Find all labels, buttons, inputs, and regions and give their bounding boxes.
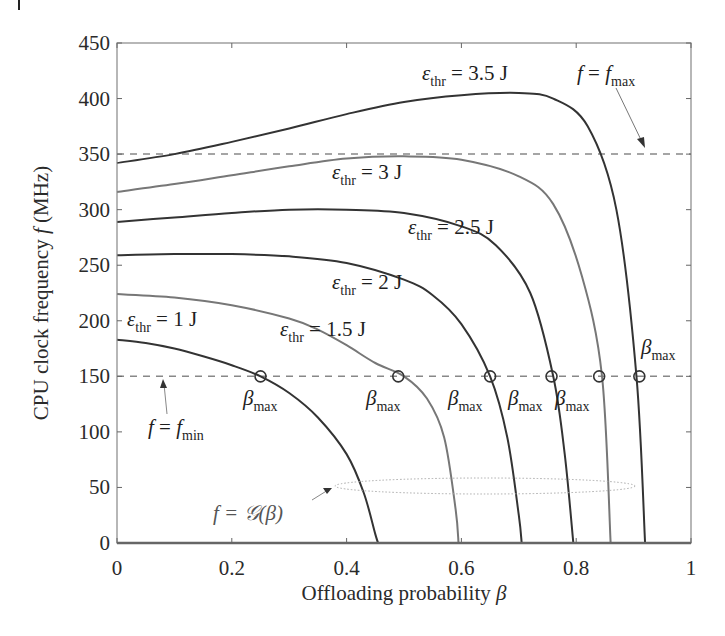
beta-max-labels: βmax βmax βmax βmax βmax βmax bbox=[242, 335, 676, 414]
y-tick-label: 100 bbox=[79, 420, 111, 444]
label-eps-1-5: εthr = 1.5 J bbox=[280, 317, 366, 345]
label-f-min: f = fmin bbox=[148, 415, 204, 443]
x-tick-label: 0.8 bbox=[563, 556, 589, 580]
y-tick-label: 300 bbox=[79, 198, 111, 222]
y-axis-title: CPU clock frequency f (MHz) bbox=[29, 166, 53, 420]
chart: 00.20.40.60.8105010015020025030035040045… bbox=[0, 0, 725, 636]
svg-text:βmax: βmax bbox=[242, 386, 278, 414]
page-mark bbox=[18, 0, 20, 10]
y-tick-label: 150 bbox=[79, 364, 111, 388]
label-eps-3: εthr = 3 J bbox=[332, 160, 402, 188]
x-tick-label: 0 bbox=[112, 556, 123, 580]
label-g-beta: f = 𝒢(β) bbox=[213, 501, 283, 525]
x-tick-label: 1 bbox=[686, 556, 697, 580]
y-tick-label: 50 bbox=[89, 475, 110, 499]
x-tick-label: 0.2 bbox=[219, 556, 245, 580]
y-tick-label: 350 bbox=[79, 142, 111, 166]
arrow-f-min bbox=[160, 379, 167, 414]
label-eps-1: εthr = 1 J bbox=[127, 307, 197, 335]
series-line bbox=[117, 156, 611, 543]
plot-lines bbox=[117, 93, 691, 543]
svg-text:βmax: βmax bbox=[507, 386, 543, 414]
x-axis-title: Offloading probability β bbox=[302, 581, 507, 605]
g-beta-region bbox=[335, 478, 635, 494]
axes bbox=[117, 43, 691, 543]
label-eps-2: εthr = 2 J bbox=[332, 270, 402, 298]
label-f-max: f = fmax bbox=[577, 61, 635, 89]
label-eps-2-5: εthr = 2.5 J bbox=[408, 215, 494, 243]
svg-text:βmax: βmax bbox=[640, 335, 676, 363]
x-tick-label: 0.6 bbox=[448, 556, 474, 580]
label-eps-3-5: εthr = 3.5 J bbox=[422, 61, 508, 89]
svg-text:βmax: βmax bbox=[447, 386, 483, 414]
y-tick-label: 450 bbox=[79, 31, 111, 55]
svg-text:βmax: βmax bbox=[554, 386, 590, 414]
y-tick-label: 200 bbox=[79, 309, 111, 333]
x-tick-label: 0.4 bbox=[333, 556, 360, 580]
arrow-f-max bbox=[616, 88, 645, 148]
y-tick-label: 0 bbox=[100, 531, 111, 555]
y-tick-label: 250 bbox=[79, 253, 111, 277]
svg-text:βmax: βmax bbox=[365, 386, 401, 414]
arrow-g-beta bbox=[312, 488, 332, 500]
ticks: 00.20.40.60.8105010015020025030035040045… bbox=[79, 31, 697, 580]
y-tick-label: 400 bbox=[79, 87, 111, 111]
